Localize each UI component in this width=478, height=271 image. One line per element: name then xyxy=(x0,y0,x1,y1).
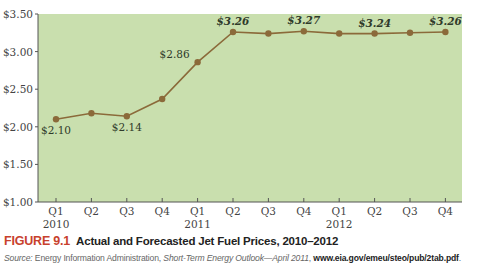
data-point xyxy=(442,29,448,35)
data-point xyxy=(407,30,413,36)
x-tick-label: Q1 xyxy=(190,205,205,217)
x-year-label: 2010 xyxy=(43,218,70,230)
data-point xyxy=(301,28,307,34)
x-tick-label: Q2 xyxy=(84,205,99,217)
figure-caption: FIGURE 9.1Actual and Forecasted Jet Fuel… xyxy=(4,234,338,248)
source-note: Source: Energy Information Administratio… xyxy=(4,253,461,263)
figure-title: Actual and Forecasted Jet Fuel Prices, 2… xyxy=(76,235,338,247)
data-label: $3.26 xyxy=(217,15,251,27)
data-label: $3.24 xyxy=(358,17,391,29)
source-agency: Energy Information Administration, xyxy=(35,253,164,263)
source-suffix: . xyxy=(459,253,461,263)
source-url[interactable]: www.eia.gov/emeu/steo/pub/2tab.pdf xyxy=(313,253,458,263)
x-tick-label: Q2 xyxy=(367,205,382,217)
x-year-label: 2011 xyxy=(184,218,211,230)
x-tick-label: Q1 xyxy=(48,205,63,217)
y-tick-label: $3.50 xyxy=(3,8,33,20)
y-tick-label: $1.00 xyxy=(3,196,33,208)
y-tick-label: $2.00 xyxy=(3,121,33,133)
data-label: $3.27 xyxy=(287,14,321,26)
x-year-label: 2012 xyxy=(326,218,353,230)
data-point xyxy=(336,30,342,36)
x-tick-label: Q3 xyxy=(261,205,276,217)
source-publication: Short-Term Energy Outlook—April 2011 xyxy=(163,253,309,263)
x-tick-label: Q2 xyxy=(225,205,240,217)
x-tick-label: Q3 xyxy=(402,205,417,217)
data-point xyxy=(371,30,377,36)
line-chart: $1.00$1.50$2.00$2.50$3.00$3.50Q1Q2Q3Q4Q1… xyxy=(0,0,478,230)
x-tick-label: Q4 xyxy=(438,205,454,217)
source-prefix: Source: xyxy=(4,253,35,263)
y-tick-label: $1.50 xyxy=(3,158,33,170)
data-label: $2.14 xyxy=(112,121,142,133)
y-tick-label: $2.50 xyxy=(3,83,33,95)
data-point xyxy=(159,96,165,102)
data-point xyxy=(124,113,130,119)
x-tick-label: Q1 xyxy=(332,205,347,217)
data-label: $2.86 xyxy=(160,48,190,60)
figure-label: FIGURE 9.1 xyxy=(4,234,70,248)
data-point xyxy=(53,116,59,122)
x-tick-label: Q4 xyxy=(155,205,171,217)
x-tick-label: Q3 xyxy=(119,205,134,217)
plot-area xyxy=(38,14,462,202)
data-point xyxy=(230,29,236,35)
data-point xyxy=(194,59,200,65)
data-label: $2.10 xyxy=(41,124,71,136)
y-tick-label: $3.00 xyxy=(3,46,33,58)
data-label: $3.26 xyxy=(429,15,463,27)
data-point xyxy=(265,30,271,36)
x-tick-label: Q4 xyxy=(296,205,312,217)
data-point xyxy=(88,110,94,116)
